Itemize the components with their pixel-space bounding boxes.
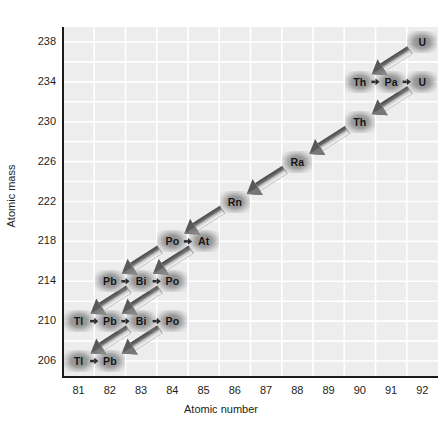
x-tick-label-90: 90 xyxy=(345,385,375,396)
nuclide-node-ra226[interactable]: Ra xyxy=(284,152,310,172)
nuclide-symbol: Bi xyxy=(136,315,147,327)
nuclide-node-u238[interactable]: U xyxy=(409,32,435,52)
nuclide-node-th234[interactable]: Th xyxy=(347,72,373,92)
nuclide-node-bi210[interactable]: Bi xyxy=(128,311,154,331)
nuclide-symbol: Po xyxy=(166,315,180,327)
x-tick-label-92: 92 xyxy=(407,385,437,396)
nuclide-symbol: Th xyxy=(353,116,366,128)
nuclide-node-rn222[interactable]: Rn xyxy=(222,192,248,212)
nuclide-symbol: Ra xyxy=(291,156,305,168)
nuclide-node-po210[interactable]: Po xyxy=(159,311,185,331)
nuclide-node-tl206[interactable]: Tl xyxy=(66,351,92,371)
x-tick-label-85: 85 xyxy=(189,385,219,396)
nuclide-node-pa234[interactable]: Pa xyxy=(378,72,404,92)
x-tick-label-81: 81 xyxy=(64,385,94,396)
x-tick-label-84: 84 xyxy=(157,385,187,396)
nuclide-symbol: U xyxy=(419,76,427,88)
x-tick-label-83: 83 xyxy=(126,385,156,396)
nuclide-node-th230[interactable]: Th xyxy=(347,112,373,132)
decay-chain-chart: 238234230226222218214210206 818283848586… xyxy=(0,0,442,429)
nuclide-symbol: Pb xyxy=(103,275,117,287)
nuclide-symbol: Po xyxy=(166,235,180,247)
nuclide-symbol: Tl xyxy=(74,315,84,327)
nuclide-node-tl210[interactable]: Tl xyxy=(66,311,92,331)
nuclide-node-at218[interactable]: At xyxy=(191,231,217,251)
nuclide-symbol: At xyxy=(198,235,209,247)
nuclide-node-pb214[interactable]: Pb xyxy=(97,271,123,291)
nuclide-symbol: Th xyxy=(353,76,366,88)
nuclide-symbol: U xyxy=(419,36,427,48)
nuclide-node-pb206[interactable]: Pb xyxy=(97,351,123,371)
nuclide-node-pb210[interactable]: Pb xyxy=(97,311,123,331)
nuclide-node-po214[interactable]: Po xyxy=(159,271,185,291)
x-axis-title: Atomic number xyxy=(0,403,442,415)
nuclide-symbol: Pb xyxy=(103,355,117,367)
nuclide-symbol: Tl xyxy=(74,355,84,367)
x-tick-label-89: 89 xyxy=(314,385,344,396)
x-tick-label-88: 88 xyxy=(282,385,312,396)
x-tick-label-87: 87 xyxy=(251,385,281,396)
nuclide-node-u234[interactable]: U xyxy=(409,72,435,92)
nuclide-symbol: Pa xyxy=(385,76,398,88)
y-axis-title: Atomic mass xyxy=(5,141,17,251)
nuclide-node-bi214[interactable]: Bi xyxy=(128,271,154,291)
nuclide-symbol: Bi xyxy=(136,275,147,287)
nuclide-symbol: Pb xyxy=(103,315,117,327)
nuclide-node-po218[interactable]: Po xyxy=(159,231,185,251)
x-tick-label-86: 86 xyxy=(220,385,250,396)
nuclide-symbol: Po xyxy=(166,275,180,287)
x-tick-label-91: 91 xyxy=(376,385,406,396)
x-tick-label-82: 82 xyxy=(95,385,125,396)
nuclide-symbol: Rn xyxy=(228,196,242,208)
